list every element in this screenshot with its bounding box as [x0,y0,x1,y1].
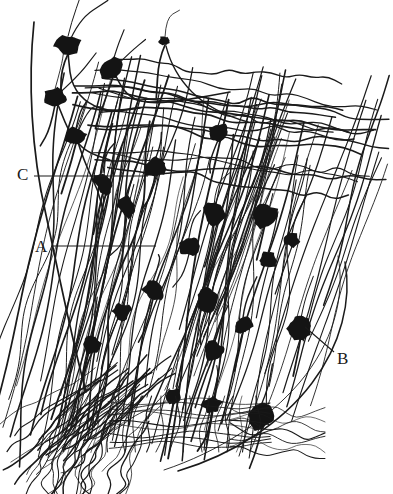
drawing-canvas [0,0,393,494]
label-c: C [17,166,29,183]
neuroanatomy-figure: A B C [0,0,393,494]
label-a: A [35,238,48,255]
label-b: B [337,350,349,367]
